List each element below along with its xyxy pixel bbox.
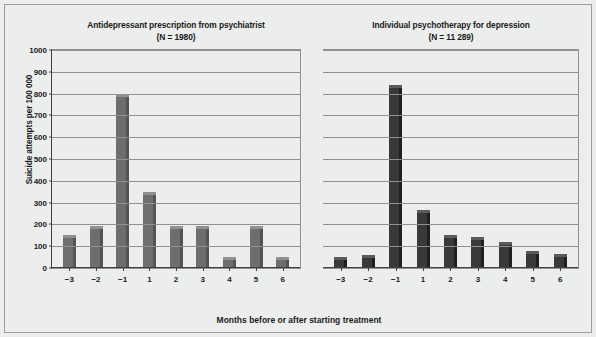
- x-tick-label: 5: [243, 275, 270, 284]
- bar[interactable]: [389, 85, 402, 268]
- bar-face: [526, 254, 536, 268]
- gridline: [52, 50, 300, 51]
- gridline: [323, 181, 578, 182]
- gridline: [323, 246, 578, 247]
- bar-face: [63, 238, 73, 268]
- bar-side: [454, 235, 457, 268]
- bar-top: [250, 226, 263, 229]
- y-tick-label: 0: [43, 264, 47, 273]
- y-tick-label: 300: [34, 198, 47, 207]
- bar-face: [196, 229, 206, 269]
- bar-side: [73, 235, 76, 268]
- x-tick-label: −3: [56, 275, 83, 284]
- x-tick-label: 6: [547, 275, 574, 284]
- y-tick-mark: [49, 93, 52, 94]
- bar[interactable]: [526, 251, 539, 268]
- panel-right-title-line1: Individual psychotherapy for depression: [372, 20, 530, 30]
- y-axis-title: Suicide attempts per 100 000: [25, 30, 34, 230]
- bar-face: [444, 238, 454, 268]
- x-axis-line: [323, 267, 578, 268]
- bar-top: [196, 226, 209, 229]
- panel-left-title: Antidepressant prescription from psychia…: [51, 19, 301, 43]
- x-tick-mark: [533, 268, 534, 271]
- x-tick-mark: [396, 268, 397, 271]
- x-tick-label: −2: [354, 275, 381, 284]
- bar[interactable]: [554, 254, 567, 268]
- bar[interactable]: [417, 210, 430, 268]
- gridline: [52, 72, 300, 73]
- x-axis-title: Months before or after starting treatmen…: [5, 315, 593, 325]
- bar-top: [471, 237, 484, 240]
- x-tick-label: −1: [382, 275, 409, 284]
- bar[interactable]: [444, 235, 457, 268]
- gridline: [323, 159, 578, 160]
- panel-antidepressant: Antidepressant prescription from psychia…: [51, 19, 301, 301]
- bar-top: [223, 257, 236, 260]
- gridline: [52, 159, 300, 160]
- bar-face: [471, 240, 481, 268]
- x-tick-mark: [256, 268, 257, 271]
- bar-top: [499, 242, 512, 245]
- panel-right-title-line2: (N = 11 289): [323, 31, 579, 43]
- x-tick-label: 4: [216, 275, 243, 284]
- bar-side: [399, 85, 402, 268]
- y-tick-mark: [49, 202, 52, 203]
- bar-top: [362, 255, 375, 258]
- bar[interactable]: [471, 237, 484, 268]
- bar-face: [170, 229, 180, 269]
- x-tick-mark: [176, 268, 177, 271]
- bar-face: [417, 213, 427, 268]
- x-tick-label: −3: [327, 275, 354, 284]
- plot-area-right: −3−2−1123456: [323, 49, 579, 269]
- gridline: [52, 224, 300, 225]
- gridline: [323, 203, 578, 204]
- y-tick-label: 900: [34, 67, 47, 76]
- bar-top: [143, 192, 156, 195]
- x-tick-label: 1: [136, 275, 163, 284]
- y-tick-label: 600: [34, 133, 47, 142]
- x-tick-mark: [560, 268, 561, 271]
- bar-top: [554, 254, 567, 257]
- x-tick-mark: [149, 268, 150, 271]
- figure-frame: Suicide attempts per 100 000 Antidepress…: [4, 4, 592, 333]
- x-tick-mark: [123, 268, 124, 271]
- y-tick-mark: [49, 115, 52, 116]
- x-tick-mark: [478, 268, 479, 271]
- gridline: [323, 50, 578, 51]
- bar-top: [389, 85, 402, 88]
- bar-top: [444, 235, 457, 238]
- y-tick-mark: [49, 50, 52, 51]
- x-tick-label: 6: [269, 275, 296, 284]
- y-tick-label: 800: [34, 89, 47, 98]
- plot-area-left: −3−2−1123456 010020030040050060070080090…: [51, 49, 301, 269]
- bar[interactable]: [63, 235, 76, 268]
- x-tick-label: −1: [109, 275, 136, 284]
- bar-top: [63, 235, 76, 238]
- bar-side: [427, 210, 430, 268]
- x-tick-mark: [450, 268, 451, 271]
- y-tick-mark: [49, 180, 52, 181]
- x-tick-label: 2: [163, 275, 190, 284]
- panel-left-title-line1: Antidepressant prescription from psychia…: [87, 20, 264, 30]
- y-tick-mark: [49, 137, 52, 138]
- x-tick-mark: [423, 268, 424, 271]
- y-tick-mark: [49, 246, 52, 247]
- y-tick-mark: [49, 71, 52, 72]
- x-tick-label: −2: [83, 275, 110, 284]
- x-tick-mark: [283, 268, 284, 271]
- x-tick-mark: [203, 268, 204, 271]
- y-tick-mark: [49, 224, 52, 225]
- bar-face: [250, 229, 260, 269]
- bar-side: [481, 237, 484, 268]
- x-tick-mark: [341, 268, 342, 271]
- figure-root: Suicide attempts per 100 000 Antidepress…: [0, 0, 596, 337]
- gridline: [323, 137, 578, 138]
- bar-top: [170, 226, 183, 229]
- x-tick-label: 1: [409, 275, 436, 284]
- gridline: [323, 224, 578, 225]
- x-tick-label: 3: [464, 275, 491, 284]
- bar-face: [143, 195, 153, 268]
- bar-face: [499, 245, 509, 268]
- y-tick-label: 700: [34, 111, 47, 120]
- gridline: [52, 115, 300, 116]
